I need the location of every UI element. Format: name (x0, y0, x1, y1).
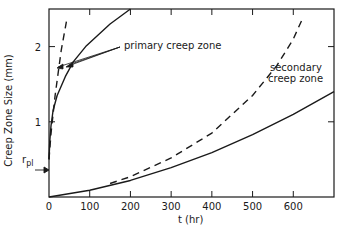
data-series (49, 9, 334, 197)
primary-annotation: primary creep zone (124, 40, 221, 51)
svg-text:300: 300 (162, 201, 181, 212)
svg-text:200: 200 (121, 201, 140, 212)
svg-text:500: 500 (243, 201, 262, 212)
y-axis-label: Creep Zone Size (mm) (3, 54, 14, 166)
creep-zone-chart: 010020030040050060012 (0, 0, 340, 234)
svg-text:2: 2 (35, 42, 41, 53)
series-line (49, 17, 67, 160)
svg-text:600: 600 (284, 201, 303, 212)
svg-text:100: 100 (80, 201, 99, 212)
svg-text:400: 400 (202, 201, 221, 212)
series-line (49, 92, 334, 197)
secondary-annotation-line2: creep zone (268, 73, 323, 84)
secondary-annotation-line1: secondary (270, 62, 322, 73)
series-line (49, 9, 130, 159)
x-axis-label: t (hr) (178, 214, 203, 225)
plot-frame (49, 9, 334, 197)
tick-labels: 010020030040050060012 (35, 42, 303, 212)
axis-ticks (49, 9, 334, 197)
primary-arrows (57, 47, 120, 69)
svg-text:0: 0 (46, 201, 52, 212)
rpl-subscript: pl (26, 159, 33, 168)
svg-text:1: 1 (35, 117, 41, 128)
rpl-arrow (35, 167, 49, 173)
rpl-annotation: rpl (22, 154, 33, 168)
